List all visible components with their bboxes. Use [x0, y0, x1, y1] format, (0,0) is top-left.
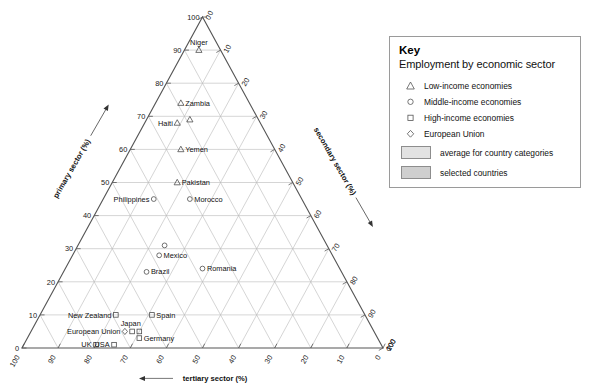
data-point-label: Morocco [194, 195, 222, 204]
circle-icon [399, 97, 421, 106]
swatch-color-average [401, 146, 431, 159]
legend-item-high-income: High-income economies [399, 110, 571, 125]
axis-title-primary: primary sector (%) [51, 137, 92, 200]
data-point[interactable]: New Zealand [68, 311, 118, 320]
triangle-icon [399, 81, 421, 90]
axis-title-tertiary: tertiary sector (%) [183, 374, 248, 383]
tick-label-primary: 70 [137, 112, 145, 121]
marker-diamond [122, 328, 127, 334]
axis-tick [58, 344, 60, 348]
square-icon [399, 113, 421, 122]
data-point[interactable] [130, 329, 135, 334]
data-point[interactable]: Romania [200, 264, 237, 273]
data-point[interactable]: Haiti [158, 119, 180, 128]
legend-item-middle-income: Middle-income economies [399, 94, 571, 109]
marker-square [130, 329, 135, 334]
axis-tick [166, 344, 168, 348]
swatch-color-selected [401, 166, 431, 179]
tick-label-secondary: 80 [348, 275, 360, 287]
legend-swatch-label: average for country categories [431, 148, 553, 158]
marker-triangle [178, 146, 184, 152]
legend-item-label: European Union [421, 129, 485, 139]
data-point-label: Germany [144, 334, 175, 343]
tick-label-secondary: 30 [258, 109, 270, 121]
legend-swatch-selected: selected countries [399, 164, 571, 181]
axis-tick [239, 344, 241, 348]
marker-circle [151, 197, 156, 202]
tick-label-primary: 100 [187, 13, 199, 22]
data-point-label: UK [81, 340, 91, 349]
data-point-label: Spain [156, 311, 175, 320]
marker-circle [157, 253, 162, 258]
tick-label-tertiary: 0 [373, 354, 383, 362]
data-point[interactable] [187, 116, 193, 122]
axis-tick [275, 344, 277, 348]
legend-box: Key Employment by economic sector Low-in… [389, 36, 581, 188]
marker-triangle [178, 100, 184, 106]
data-point[interactable]: Zambia [178, 99, 211, 108]
tick-label-secondary-hundred: 100 [384, 337, 398, 352]
data-points: NigerZambiaHaitiYemenPakistanPhilippines… [67, 38, 237, 349]
tick-label-primary: 90 [173, 46, 181, 55]
data-point[interactable] [162, 243, 167, 248]
legend-item-label: Middle-income economies [421, 97, 521, 107]
tick-label-secondary: 10 [221, 43, 233, 55]
marker-circle [200, 266, 205, 271]
marker-triangle [187, 116, 193, 122]
grid-line-secondary [275, 249, 329, 348]
legend-item-european-union: European Union [399, 126, 571, 141]
marker-circle [187, 197, 192, 202]
tick-label-primary: 80 [155, 79, 163, 88]
tick-label-primary: 10 [29, 311, 37, 320]
data-point[interactable]: Philippines [114, 195, 157, 204]
data-point-label: Niger [190, 38, 208, 47]
tick-label-tertiary: 20 [299, 354, 311, 366]
axis-tick [311, 344, 313, 348]
marker-triangle [174, 120, 180, 126]
tick-label-tertiary: 60 [154, 354, 166, 366]
tick-label-tertiary: 50 [190, 354, 202, 366]
tick-label-tertiary: 30 [263, 354, 275, 366]
tick-label-tertiary: 90 [46, 354, 58, 366]
tick-label-primary: 0 [15, 344, 19, 353]
tick-label-primary: 40 [83, 211, 91, 220]
data-point[interactable]: Mexico [157, 251, 187, 260]
tick-label-secondary: 60 [312, 208, 324, 220]
legend-swatch-label: selected countries [431, 168, 508, 178]
data-point[interactable]: Brazil [144, 267, 170, 276]
axis-arrow-line [91, 108, 107, 136]
legend-item-label: Low-income economies [421, 81, 512, 91]
tick-label-primary: 30 [65, 244, 73, 253]
data-point[interactable]: Pakistan [174, 178, 210, 187]
tick-label-secondary: 50 [294, 175, 306, 187]
tick-label-primary: 50 [101, 178, 109, 187]
tick-label-tertiary: 70 [118, 354, 130, 366]
tick-label-secondary: 90 [366, 308, 378, 320]
axis-arrow-line [356, 198, 371, 224]
data-point[interactable]: Japan [121, 319, 142, 333]
data-point[interactable]: Germany [137, 334, 174, 343]
legend-item-label: High-income economies [421, 113, 514, 123]
grid-line-secondary [347, 315, 365, 348]
marker-triangle [174, 179, 180, 185]
data-point-label: New Zealand [68, 311, 112, 320]
data-point-label: European Union [67, 327, 120, 336]
marker-circle [144, 269, 149, 274]
data-point-label: Japan [121, 319, 141, 328]
data-point-label: Haiti [158, 119, 173, 128]
marker-circle [162, 243, 167, 248]
marker-triangle [196, 47, 202, 53]
axis-title-secondary: secondary sector (%) [312, 126, 358, 197]
tick-label-tertiary: 80 [82, 354, 94, 366]
grid-line-tertiary [40, 315, 58, 348]
tick-label-tertiary: 100 [8, 354, 22, 369]
data-point[interactable]: Yemen [178, 145, 208, 154]
data-point-label: Yemen [185, 145, 208, 154]
data-point[interactable]: European Union [67, 327, 127, 336]
data-point-label: Romania [207, 264, 237, 273]
data-point[interactable]: Morocco [187, 195, 222, 204]
tick-label-tertiary: 40 [226, 354, 238, 366]
data-point-label: Pakistan [182, 178, 210, 187]
marker-square [112, 342, 117, 347]
data-point-label: Brazil [151, 267, 170, 276]
